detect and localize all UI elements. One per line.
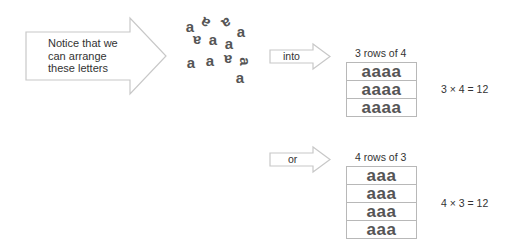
scattered-letter: a (222, 53, 234, 68)
scattered-letter: a (207, 32, 219, 47)
intro-line-3: these letters (48, 62, 118, 75)
grid-row: aaa (347, 167, 416, 185)
into-label: into (283, 50, 300, 62)
equation-1: 3 × 4 = 12 (441, 83, 488, 95)
grid-1-title: 3 rows of 4 (355, 47, 406, 59)
grid-row: aaa (347, 221, 416, 239)
grid-row: aaa (347, 185, 416, 203)
scattered-letter: a (191, 34, 203, 49)
intro-line-2: can arrange (48, 50, 118, 63)
or-label: or (288, 153, 297, 165)
grid-4x3: aaa aaa aaa aaa (346, 166, 417, 239)
grid-row: aaa (347, 203, 416, 221)
scattered-letter: a (185, 55, 197, 70)
grid-3x4: aaaa aaaa aaaa (346, 62, 417, 117)
scattered-letter: a (235, 24, 247, 39)
scattered-letter: a (184, 19, 196, 34)
scattered-letter: a (234, 70, 246, 85)
or-arrow (270, 147, 330, 172)
grid-row: aaaa (347, 63, 416, 81)
equation-2: 4 × 3 = 12 (441, 197, 488, 209)
intro-text: Notice that we can arrange these letters (48, 37, 118, 75)
scattered-letter: a (238, 56, 253, 68)
scattered-letter: a (204, 53, 216, 68)
grid-row: aaaa (347, 99, 416, 117)
intro-line-1: Notice that we (48, 37, 118, 50)
grid-row: aaaa (347, 81, 416, 99)
grid-2-title: 4 rows of 3 (355, 151, 406, 163)
scattered-letter: a (223, 36, 235, 51)
into-arrow (270, 44, 330, 69)
